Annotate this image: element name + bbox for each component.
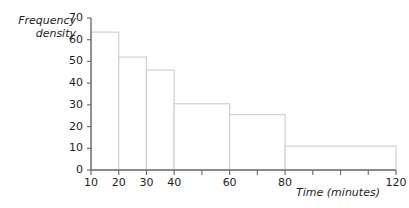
x-axis-tick-label: 30 (131, 176, 161, 189)
y-axis-tick-label: 10 (57, 141, 83, 154)
x-axis-tick-label: 10 (76, 176, 106, 189)
histogram-bar (174, 104, 229, 170)
y-axis-tick-label: 0 (57, 163, 83, 176)
y-axis-tick-label: 20 (57, 120, 83, 133)
x-axis-tick-label: 20 (104, 176, 134, 189)
y-axis-tick-label: 70 (57, 11, 83, 24)
histogram-figure: Frequency density Time (minutes) 0102030… (0, 0, 409, 208)
y-axis-tick-label: 50 (57, 54, 83, 67)
x-axis-tick-label: 120 (381, 176, 409, 189)
histogram-bar (119, 57, 147, 170)
histogram-bar (146, 70, 174, 170)
histogram-bar (230, 115, 285, 170)
x-axis-tick-label: 60 (215, 176, 245, 189)
y-axis-tick-label: 40 (57, 76, 83, 89)
histogram-bar (91, 32, 119, 170)
x-axis-tick-label: 80 (270, 176, 300, 189)
y-axis-tick-label: 60 (57, 33, 83, 46)
x-axis-tick-label: 40 (159, 176, 189, 189)
histogram-bar (285, 146, 396, 170)
y-axis-tick-label: 30 (57, 98, 83, 111)
